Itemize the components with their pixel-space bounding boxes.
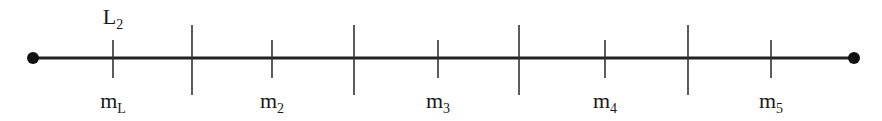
label-m-5: m5 [759,90,783,112]
label-sub: 3 [443,101,450,116]
number-line-diagram: L2 mL m2 m3 m4 m5 [0,0,882,121]
left-endpoint-dot-icon [27,52,39,64]
right-endpoint-dot-icon [848,52,860,64]
label-m-L: mL [100,90,126,112]
label-main: m [759,88,776,113]
label-main: m [260,88,277,113]
top-label-main: L [103,4,116,29]
top-label-L2: L2 [103,6,123,28]
top-label-sub: 2 [116,17,123,32]
label-sub: 2 [277,101,284,116]
label-m-3: m3 [426,90,450,112]
label-sub: L [117,101,126,116]
label-main: m [593,88,610,113]
label-m-2: m2 [260,90,284,112]
label-main: m [426,88,443,113]
label-m-4: m4 [593,90,617,112]
boundary-ticks [192,25,688,95]
label-sub: 4 [610,101,617,116]
label-sub: 5 [776,101,783,116]
label-main: m [100,88,117,113]
